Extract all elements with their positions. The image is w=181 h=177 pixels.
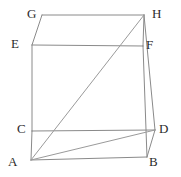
vertex-label-d: D xyxy=(159,122,168,135)
vertex-label-f: F xyxy=(146,38,153,51)
cube-edge-FB xyxy=(143,46,147,157)
cube-edge-CD xyxy=(32,130,155,131)
geometry-figure: GHEFCDAB xyxy=(0,0,181,177)
vertex-label-h: H xyxy=(152,7,161,20)
cube-edge-HF xyxy=(143,15,144,46)
vertex-label-a: A xyxy=(8,155,17,168)
vertex-label-b: B xyxy=(149,155,158,168)
vertex-label-g: G xyxy=(27,7,36,20)
cube-edge-CA xyxy=(31,131,32,160)
cube-edge-DB xyxy=(147,130,155,157)
cube-diagonal-AH xyxy=(31,15,144,160)
vertex-label-c: C xyxy=(17,122,26,135)
cube-diagonal-AD xyxy=(31,130,155,160)
cube-edge-EF xyxy=(32,45,143,46)
cube-drawing xyxy=(0,0,181,177)
cube-edge-group xyxy=(31,15,155,160)
vertex-label-e: E xyxy=(11,37,19,50)
cube-edge-AB xyxy=(31,157,147,160)
